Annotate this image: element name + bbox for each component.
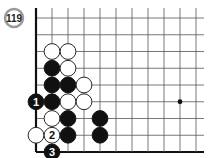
stone-disc (44, 77, 60, 93)
black-stone: 1 (28, 94, 44, 110)
black-stone: 3 (44, 144, 60, 158)
stones: 123 (28, 44, 108, 158)
white-stone: 2 (44, 127, 60, 143)
black-stone (92, 127, 108, 143)
stone-disc (44, 60, 60, 76)
black-stone (44, 77, 60, 93)
stone-disc (60, 127, 76, 143)
white-stone (44, 111, 60, 127)
move-number-label: 3 (49, 146, 55, 158)
white-stone (28, 127, 44, 143)
stone-disc (76, 94, 92, 110)
stone-disc (60, 44, 76, 60)
move-number-label: 2 (49, 129, 55, 141)
black-stone (44, 94, 60, 110)
stone-disc (92, 127, 108, 143)
black-stone (44, 60, 60, 76)
problem-number-badge: 119 (5, 9, 23, 27)
stone-disc (76, 77, 92, 93)
black-stone (60, 111, 76, 127)
star-points (178, 99, 183, 104)
go-board-diagram: 123 119 (0, 0, 208, 158)
white-stone (76, 77, 92, 93)
stone-disc (44, 44, 60, 60)
stone-disc (44, 111, 60, 127)
stone-disc (60, 77, 76, 93)
black-stone (92, 111, 108, 127)
stone-disc (92, 111, 108, 127)
stone-disc (60, 60, 76, 76)
white-stone (76, 94, 92, 110)
black-stone (60, 77, 76, 93)
white-stone (44, 44, 60, 60)
stone-disc (60, 111, 76, 127)
white-stone (60, 60, 76, 76)
star-point (178, 99, 183, 104)
stone-disc (28, 127, 44, 143)
board-grid (36, 8, 204, 152)
white-stone (60, 44, 76, 60)
white-stone (60, 94, 76, 110)
black-stone (60, 127, 76, 143)
stone-disc (60, 94, 76, 110)
stone-disc (44, 94, 60, 110)
move-number-label: 1 (33, 96, 39, 108)
problem-number: 119 (6, 13, 23, 24)
